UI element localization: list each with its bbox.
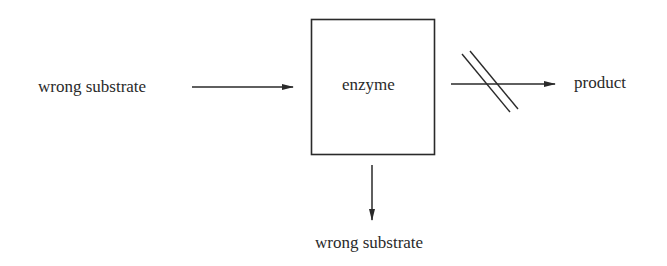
enzyme-label: enzyme xyxy=(342,76,395,93)
blocked-slash-icon xyxy=(462,51,518,112)
diagram-canvas: wrong substrate enzyme product wrong sub… xyxy=(0,0,667,266)
input-substrate-label: wrong substrate xyxy=(38,78,146,95)
output-substrate-label: wrong substrate xyxy=(315,234,423,251)
product-label: product xyxy=(574,74,626,91)
diagram-graphics xyxy=(0,0,667,266)
